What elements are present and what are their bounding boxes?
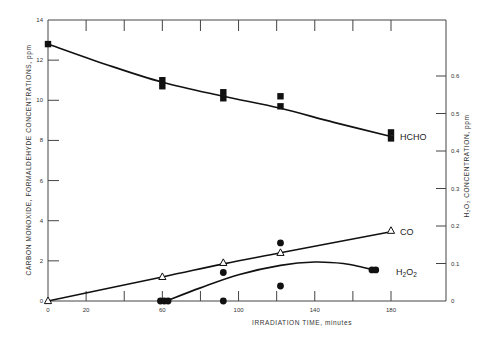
y-tick-label: 8 <box>40 137 44 143</box>
circle-marker <box>220 298 227 305</box>
square-marker <box>220 89 226 95</box>
y-right-axis-title: H₂O₂ CONCENTRATION, ppm <box>463 115 471 218</box>
y-tick-label: 14 <box>36 17 43 23</box>
y2-tick-label: 0.4 <box>451 148 460 154</box>
triangle-marker <box>387 227 394 234</box>
y-left-axis-title: CARBON MONOXIDE, FORMALDEHYDE CONCENTRAT… <box>25 45 33 276</box>
fit-curves <box>48 44 391 301</box>
series-label-h2o2: H2O2 <box>396 267 417 278</box>
square-marker <box>388 135 394 141</box>
y2-tick-label: 0.2 <box>451 223 460 229</box>
x-tick-label: 100 <box>234 307 245 313</box>
y2-tick-label: 0.1 <box>451 261 460 267</box>
y-tick-label: 12 <box>36 57 43 63</box>
circle-marker <box>220 269 227 276</box>
circle-marker <box>372 266 379 273</box>
data-markers <box>44 41 394 305</box>
y2-tick-label: 0.6 <box>451 73 460 79</box>
square-marker <box>277 93 283 99</box>
curve-co <box>48 232 391 301</box>
y-tick-label: 2 <box>40 258 44 264</box>
square-marker <box>388 129 394 135</box>
series-label-hcho: HCHO <box>400 132 427 142</box>
curve-hcho <box>48 44 391 136</box>
x-tick-label: 140 <box>310 307 321 313</box>
triangle-marker <box>220 259 227 266</box>
x-tick-label: 60 <box>159 307 166 313</box>
y2-tick-label: 0.5 <box>451 111 460 117</box>
circle-marker <box>277 283 284 290</box>
y-tick-label: 10 <box>36 97 43 103</box>
series-label-co: CO <box>400 227 414 237</box>
y-tick-label: 0 <box>40 298 44 304</box>
y-tick-label: 6 <box>40 178 44 184</box>
x-axis-title: IRRADIATION TIME, minutes <box>252 319 352 326</box>
circle-marker <box>277 239 284 246</box>
square-marker <box>45 41 51 47</box>
x-tick-label: 180 <box>386 307 397 313</box>
square-marker <box>277 103 283 109</box>
curve-h2o2 <box>166 262 374 301</box>
square-marker <box>159 77 165 83</box>
y2-tick-label: 0 <box>451 298 455 304</box>
chart: 020601001401800246810121400.10.20.30.40.… <box>0 0 497 346</box>
x-tick-label: 20 <box>83 307 90 313</box>
y-tick-label: 4 <box>40 218 44 224</box>
y2-tick-label: 0.3 <box>451 186 460 192</box>
x-tick-label: 0 <box>46 307 50 313</box>
square-marker <box>220 95 226 101</box>
square-marker <box>159 83 165 89</box>
circle-marker <box>165 298 172 305</box>
